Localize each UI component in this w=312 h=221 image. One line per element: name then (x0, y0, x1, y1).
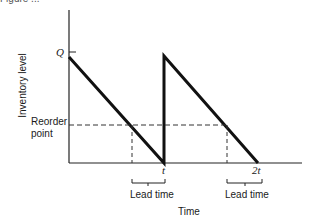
reorder-label-point: point (31, 128, 53, 139)
q-label: Q (56, 47, 64, 58)
lead-time-label-1: Lead time (130, 189, 174, 200)
inventory-diagram (0, 0, 312, 221)
x-axis-label: Time (178, 206, 200, 217)
reorder-label: Reorder (31, 116, 67, 127)
inventory-sawtooth (69, 56, 258, 163)
t-tick-label: t (162, 165, 165, 176)
lead-time-bracket-2 (227, 179, 262, 186)
lead-time-bracket-1 (132, 179, 165, 186)
two-t-tick-label: 2t (252, 165, 261, 176)
y-axis-label: Inventory level (17, 46, 28, 126)
lead-time-label-2: Lead time (225, 189, 269, 200)
